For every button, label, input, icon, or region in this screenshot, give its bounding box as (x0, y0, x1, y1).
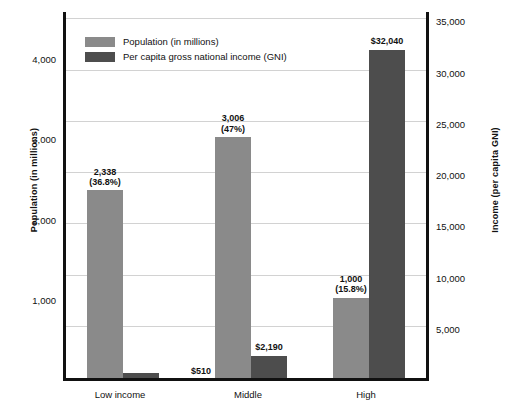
bar-gni[interactable]: $510 (123, 373, 159, 378)
chart-legend: Population (in millions) Per capita gros… (85, 36, 287, 66)
y-axis-left-ticks: 1,0002,0003,0004,000 (8, 0, 56, 415)
x-category-label: Middle (198, 389, 298, 400)
bar-label-gni: $2,190 (255, 342, 283, 352)
y-tick-left: 4,000 (32, 54, 56, 65)
x-category-label: Low income (70, 389, 170, 400)
bar-gni[interactable]: $2,190 (251, 356, 287, 378)
bar-label-gni: $510 (191, 366, 211, 376)
legend-label-population: Population (in millions) (123, 36, 219, 47)
bar-label-population: 3,006(47%) (221, 113, 245, 134)
legend-swatch-population (85, 37, 115, 47)
bar-label-population: 1,000(15.8%) (335, 274, 367, 295)
y-tick-left: 3,000 (32, 134, 56, 145)
x-category-label: High (316, 389, 416, 400)
bar-population[interactable]: 3,006(47%) (215, 137, 251, 378)
legend-swatch-gni (85, 52, 115, 62)
bar-population[interactable]: 1,000(15.8%) (333, 298, 369, 378)
y-tick-right: 5,000 (436, 324, 460, 335)
y-tick-right: 15,000 (436, 221, 465, 232)
bar-label-line: (36.8%) (89, 177, 121, 187)
y-tick-right: 35,000 (436, 16, 465, 27)
bar-group: 1,000(15.8%)$32,040 (333, 50, 405, 378)
legend-item-gni: Per capita gross national income (GNI) (85, 51, 287, 62)
bar-group: 3,006(47%)$2,190 (215, 137, 287, 378)
bar-label-line: 3,006 (222, 113, 245, 123)
bar-label-line: 1,000 (340, 274, 363, 284)
y-tick-right: 10,000 (436, 273, 465, 284)
y-tick-left: 1,000 (32, 295, 56, 306)
chart-container: Population (in millions) Income (per cap… (0, 0, 505, 415)
y-tick-right: 30,000 (436, 68, 465, 79)
bar-label-line: (15.8%) (335, 284, 367, 294)
bar-group: 2,338(36.8%)$510 (87, 190, 159, 378)
y-axis-right-ticks: 5,00010,00015,00020,00025,00030,00035,00… (436, 0, 496, 415)
bar-label-gni: $32,040 (371, 36, 404, 46)
bar-label-population: 2,338(36.8%) (89, 167, 121, 188)
y-tick-right: 25,000 (436, 119, 465, 130)
gridline (66, 18, 426, 19)
bar-population[interactable]: 2,338(36.8%) (87, 190, 123, 378)
bar-label-line: 2,338 (94, 167, 117, 177)
bar-gni[interactable]: $32,040 (369, 50, 405, 378)
y-tick-right: 20,000 (436, 170, 465, 181)
legend-label-gni: Per capita gross national income (GNI) (123, 51, 287, 62)
bar-label-line: (47%) (221, 124, 245, 134)
legend-item-population: Population (in millions) (85, 36, 287, 47)
y-tick-left: 2,000 (32, 215, 56, 226)
plot-area: 2,338(36.8%)$5103,006(47%)$2,1901,000(15… (63, 12, 429, 381)
